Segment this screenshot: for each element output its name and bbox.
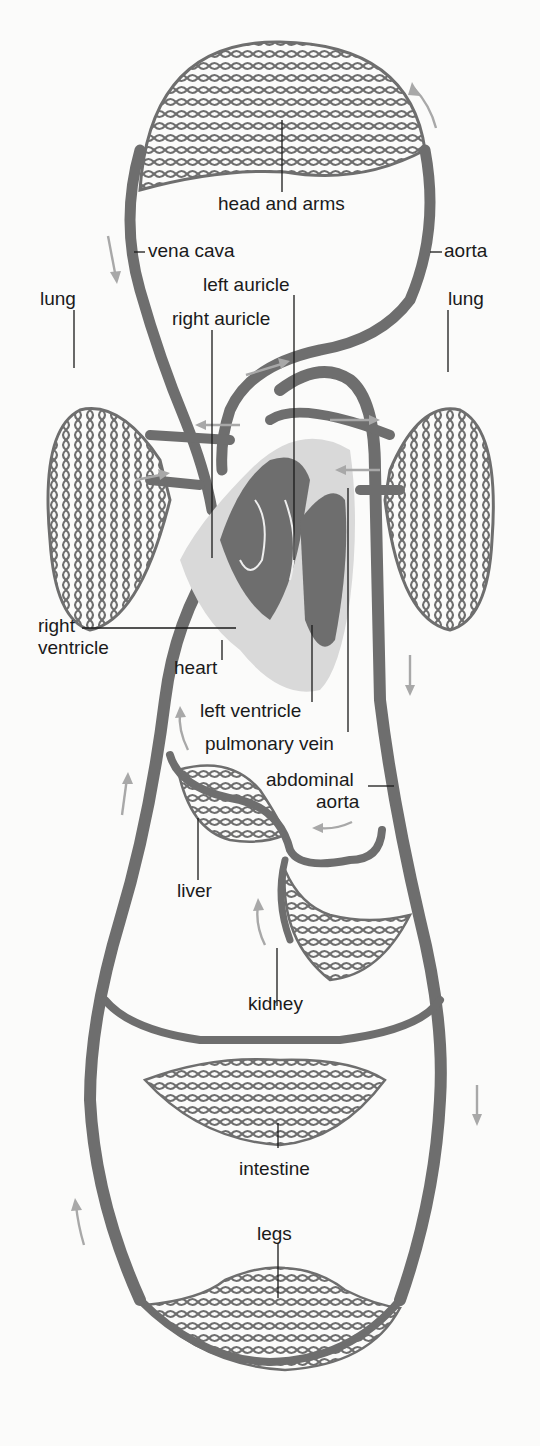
arrow-down-icon bbox=[110, 271, 121, 284]
arrow-down-icon bbox=[405, 685, 415, 696]
label-right-auricle: right auricle bbox=[172, 308, 270, 329]
arrow-down-icon bbox=[472, 1114, 482, 1126]
circulatory-diagram: head and arms vena cava aorta left auric… bbox=[0, 0, 540, 1446]
arrow-up-icon bbox=[122, 772, 133, 784]
arrow-up-icon bbox=[253, 898, 264, 911]
legs-capillaries bbox=[145, 1268, 400, 1371]
label-lung-right: lung bbox=[448, 288, 484, 309]
label-pulmonary-vein: pulmonary vein bbox=[205, 733, 334, 754]
vessels bbox=[90, 150, 441, 1362]
label-vena-cava: vena cava bbox=[148, 240, 235, 261]
label-left-ventricle: left ventricle bbox=[200, 700, 301, 721]
label-right-ventricle-2: ventricle bbox=[38, 637, 109, 658]
intestine-capillaries bbox=[145, 1059, 385, 1145]
label-left-auricle: left auricle bbox=[203, 274, 290, 295]
arrow-up-icon bbox=[175, 706, 186, 718]
arrow-up-icon bbox=[408, 82, 420, 96]
label-right-ventricle-1: right bbox=[38, 615, 76, 636]
label-kidney: kidney bbox=[248, 993, 303, 1014]
label-intestine: intestine bbox=[239, 1158, 310, 1179]
label-legs: legs bbox=[257, 1223, 292, 1244]
label-abdominal-aorta-1: abdominal bbox=[266, 769, 354, 790]
lung-left-capillaries bbox=[48, 409, 170, 630]
label-lung-left: lung bbox=[40, 288, 76, 309]
label-liver: liver bbox=[177, 880, 213, 901]
arrow-left-icon bbox=[195, 420, 206, 430]
arrow-left-icon bbox=[312, 823, 323, 833]
lung-right-capillaries bbox=[385, 409, 493, 630]
label-head-and-arms: head and arms bbox=[218, 193, 345, 214]
label-heart: heart bbox=[174, 657, 218, 678]
label-abdominal-aorta-2: aorta bbox=[316, 791, 360, 812]
label-aorta: aorta bbox=[444, 240, 488, 261]
kidney-capillaries bbox=[285, 870, 410, 980]
arrow-up-icon bbox=[71, 1198, 82, 1211]
